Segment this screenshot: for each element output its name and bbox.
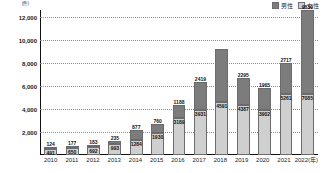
bar-value-label-female: 3931	[195, 112, 206, 117]
bar-group-2011[interactable]: 177650	[61, 10, 82, 155]
bar-stack: 24193931	[194, 10, 207, 155]
bar-value-label-male: 177	[68, 141, 76, 146]
bar-group-2015[interactable]: 7601930	[147, 10, 168, 155]
bar-segment-female[interactable]: 3189	[173, 118, 186, 155]
bar-segment-female[interactable]: 491	[44, 149, 57, 155]
bar-value-label-female: 4387	[238, 107, 249, 112]
bar-group-2018[interactable]: 4591	[211, 10, 232, 155]
bar-value-label-female: 4591	[216, 104, 227, 109]
bar-group-2010[interactable]: 124491	[40, 10, 61, 155]
bar-stack: 4591	[215, 10, 228, 155]
bar-segment-female[interactable]: 1930	[151, 133, 164, 155]
bar-group-2021[interactable]: 27175261	[275, 10, 296, 155]
bar-stack: 27175261	[280, 10, 293, 155]
x-tick-label-2022: 2022(年)	[295, 157, 318, 163]
y-tick-label-2000: 2,000	[22, 130, 37, 136]
bar-value-label-male: 760	[153, 119, 161, 124]
bar-group-2016[interactable]: 11883189	[168, 10, 189, 155]
x-tick-label-2017: 2017	[189, 157, 210, 163]
bar-group-2019[interactable]: 22954387	[233, 10, 254, 155]
bar-value-label-female: 692	[89, 149, 97, 154]
bar-value-label-male: 2295	[238, 73, 249, 78]
bar-segment-male[interactable]: 9839	[301, 10, 314, 94]
legend-label-male: 男性	[281, 3, 293, 9]
bar-segment-male[interactable]: 1188	[173, 105, 186, 119]
bar-segment-female[interactable]: 1284	[130, 140, 143, 155]
bar-stack: 235993	[108, 10, 121, 155]
bar-value-label-female: 1284	[131, 142, 142, 147]
plot-area: 12,00010,0008,0006,0004,0002,000 1244911…	[40, 10, 318, 155]
bar-segment-male[interactable]: 1965	[258, 88, 271, 111]
y-tick-label-4000: 4,000	[22, 107, 37, 113]
bar-segment-female[interactable]: 3931	[194, 110, 207, 155]
bar-segment-male[interactable]: 877	[130, 130, 143, 140]
bar-value-label-female: 3902	[259, 112, 270, 117]
bar-segment-female[interactable]: 650	[66, 148, 79, 155]
bar-value-label-male: 183	[89, 140, 97, 145]
bar-segment-female[interactable]: 993	[108, 144, 121, 155]
bar-stack: 19653902	[258, 10, 271, 155]
x-tick-label-2018: 2018	[210, 157, 231, 163]
bar-value-label-male: 2717	[280, 58, 291, 63]
y-tick-label-6000: 6,000	[22, 84, 37, 90]
bar-value-label-female: 650	[68, 150, 76, 155]
legend-item-male: 男性	[272, 2, 293, 9]
x-tick-label-2016: 2016	[167, 157, 188, 163]
legend-swatch-male	[272, 2, 279, 9]
x-tick-label-2013: 2013	[104, 157, 125, 163]
bar-value-label-female: 491	[47, 151, 55, 156]
bar-stack: 7601930	[151, 10, 164, 155]
x-tick-label-2020: 2020	[252, 157, 273, 163]
x-tick-label-2010: 2010	[40, 157, 61, 163]
x-tick-label-2012: 2012	[82, 157, 103, 163]
x-tick-label-2014: 2014	[125, 157, 146, 163]
bar-value-label-male: 124	[47, 142, 55, 147]
bar-stack: 98397085	[301, 10, 314, 155]
bar-group-2017[interactable]: 24193931	[190, 10, 211, 155]
bar-value-label-female: 3189	[173, 120, 184, 125]
y-tick-label-10000: 10,000	[19, 38, 37, 44]
bar-group-2014[interactable]: 8771284	[126, 10, 147, 155]
y-axis-unit-label: (件)	[22, 2, 29, 7]
bar-segment-female[interactable]: 7085	[301, 94, 314, 155]
bar-value-label-male: 235	[111, 136, 119, 141]
bar-segment-male[interactable]	[215, 49, 228, 102]
bar-segment-female[interactable]: 692	[87, 147, 100, 155]
bar-segment-female[interactable]: 4387	[237, 105, 250, 155]
bar-stack: 177650	[66, 10, 79, 155]
bar-segment-female[interactable]: 3902	[258, 110, 271, 155]
bar-value-label-male: 1188	[174, 100, 185, 105]
bar-value-label-male: 9839	[302, 5, 313, 10]
bar-chart: (件) 男性 女性 12,00010,0008,0006,0004,0002,0…	[0, 0, 323, 173]
bar-segment-male[interactable]: 2295	[237, 78, 250, 104]
bar-value-label-male: 2419	[195, 77, 206, 82]
bar-value-label-male: 1965	[259, 83, 270, 88]
bar-group-2013[interactable]: 235993	[104, 10, 125, 155]
bar-group-2022[interactable]: 98397085	[297, 10, 318, 155]
x-tick-label-2021: 2021	[273, 157, 294, 163]
x-tick-label-2015: 2015	[146, 157, 167, 163]
bar-series-container: 1244911776501836922359938771284760193011…	[40, 10, 318, 155]
bar-group-2020[interactable]: 19653902	[254, 10, 275, 155]
bar-stack: 22954387	[237, 10, 250, 155]
bar-value-label-female: 993	[111, 146, 119, 151]
bar-group-2012[interactable]: 183692	[83, 10, 104, 155]
bar-stack: 8771284	[130, 10, 143, 155]
bar-value-label-female: 1930	[152, 135, 163, 140]
bar-segment-female[interactable]: 5261	[280, 94, 293, 155]
x-axis-labels: 2010201120122013201420152016201720182019…	[40, 157, 318, 163]
bar-stack: 11883189	[173, 10, 186, 155]
bar-segment-male[interactable]: 2419	[194, 82, 207, 110]
bar-stack: 124491	[44, 10, 57, 155]
y-tick-label-12000: 12,000	[19, 15, 37, 21]
bar-value-label-male: 877	[132, 125, 140, 130]
x-tick-label-2019: 2019	[231, 157, 252, 163]
bar-value-label-female: 5261	[280, 96, 291, 101]
bar-stack: 183692	[87, 10, 100, 155]
x-tick-label-2011: 2011	[61, 157, 82, 163]
bar-segment-male[interactable]: 760	[151, 124, 164, 133]
y-tick-label-8000: 8,000	[22, 61, 37, 67]
bar-value-label-female: 7085	[302, 96, 313, 101]
bar-segment-female[interactable]: 4591	[215, 102, 228, 155]
bar-segment-male[interactable]: 2717	[280, 63, 293, 94]
